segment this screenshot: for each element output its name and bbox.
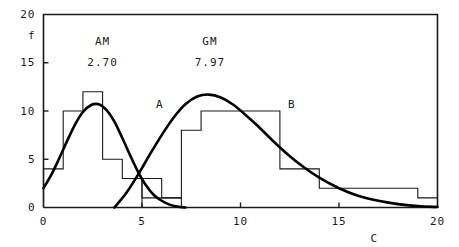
am-value: 2.70 <box>87 57 119 68</box>
curve-series-a <box>44 104 186 208</box>
x-tick-label-10: 10 <box>221 216 261 227</box>
gm-label: GM <box>194 36 226 47</box>
x-tick-label-15: 15 <box>319 216 359 227</box>
x-tick-label-5: 5 <box>122 216 162 227</box>
am-label: AM <box>87 36 119 47</box>
gm-value: 7.97 <box>194 57 226 68</box>
curve-a-label: A <box>144 99 176 110</box>
y-axis-label: f <box>8 30 36 41</box>
axis-ticks <box>44 63 340 208</box>
x-tick-label-20: 20 <box>418 216 458 227</box>
y-tick-label-5: 5 <box>8 154 36 165</box>
chart-plot-area <box>0 0 459 247</box>
y-tick-label-15: 15 <box>8 57 36 68</box>
y-tick-label-10: 10 <box>8 106 36 117</box>
y-tick-label-0: 0 <box>8 202 36 213</box>
curve-b-label: B <box>276 99 308 110</box>
chart-figure: 0 5 10 15 20 0 5 10 15 20 f C AM 2.70 GM… <box>0 0 459 247</box>
y-tick-label-20: 20 <box>8 9 36 20</box>
x-tick-label-0: 0 <box>24 216 64 227</box>
x-axis-label: C <box>370 233 378 244</box>
